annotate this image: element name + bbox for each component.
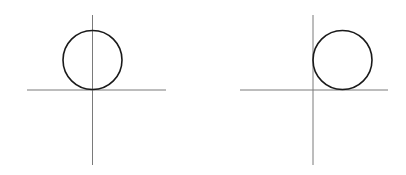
circle bbox=[313, 31, 372, 90]
diagram-canvas bbox=[0, 0, 406, 175]
figure-left bbox=[27, 15, 166, 165]
figure-right bbox=[240, 15, 388, 165]
